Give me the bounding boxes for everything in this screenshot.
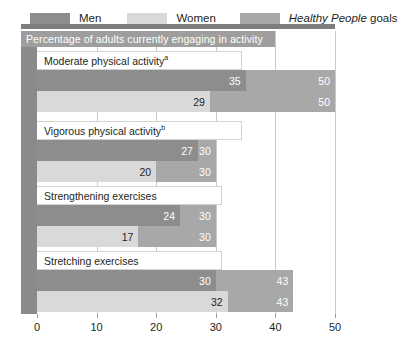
bar-segment-men: 27 xyxy=(37,140,198,161)
bar-segment-women: 29 xyxy=(37,91,210,112)
bar-group-label-text: Stretching exercises xyxy=(37,255,139,267)
x-axis-tick xyxy=(216,314,217,318)
bar-group-label: Vigorous physical activityb xyxy=(37,121,242,140)
bar-goal-label: 43 xyxy=(277,296,294,308)
bar-segment-women: 32 xyxy=(37,291,228,312)
x-axis-tick-label: 40 xyxy=(269,321,281,333)
bar-value-label: 24 xyxy=(163,210,180,222)
bar-segment-goal: 43 xyxy=(216,270,293,291)
bar-value-label: 17 xyxy=(122,231,139,243)
x-axis-tick xyxy=(156,314,157,318)
bar-row: 3243 xyxy=(37,291,293,312)
bar-segment-men: 35 xyxy=(37,70,246,91)
bar-group-label: Moderate physical activitya xyxy=(37,51,242,70)
bar-segment-goal: 30 xyxy=(138,226,215,247)
bar-segment-men: 30 xyxy=(37,270,216,291)
bar-group-footnote-marker: b xyxy=(161,124,165,131)
x-axis-tick xyxy=(37,314,38,318)
bar-group-label-text: Vigorous physical activityb xyxy=(37,124,165,137)
legend-label-goals-italic: Healthy People xyxy=(289,12,367,24)
bar-group-footnote-marker: a xyxy=(164,54,168,61)
bar-row: 2730 xyxy=(37,140,216,161)
bar-goal-label: 50 xyxy=(318,75,335,87)
x-axis-tick-label: 0 xyxy=(34,321,40,333)
bar-goal-label: 30 xyxy=(199,166,216,178)
legend-swatch-goals xyxy=(240,13,280,24)
legend-label-goals-rest: goals xyxy=(367,12,397,24)
bar-segment-goal: 30 xyxy=(156,161,216,182)
bar-value-label: 30 xyxy=(199,275,216,287)
x-axis: 01020304050 xyxy=(37,314,335,349)
legend-item-women: Women xyxy=(127,12,215,24)
legend-label-men: Men xyxy=(79,12,101,24)
plot-left-band xyxy=(21,31,37,314)
bar-segment-goal: 43 xyxy=(228,291,294,312)
legend-item-men: Men xyxy=(30,12,101,24)
bar-row: 3550 xyxy=(37,70,335,91)
legend-swatch-men xyxy=(30,13,70,24)
x-axis-tick-label: 50 xyxy=(329,321,341,333)
bar-row: 2030 xyxy=(37,161,216,182)
bar-value-label: 20 xyxy=(140,166,157,178)
gridline xyxy=(335,31,336,314)
chart-title-bar: Percentage of adults currently engaging … xyxy=(21,31,275,47)
x-axis-tick xyxy=(335,314,336,318)
x-axis-tick xyxy=(97,314,98,318)
x-axis-tick-label: 20 xyxy=(150,321,162,333)
x-axis-tick-label: 10 xyxy=(90,321,102,333)
x-axis-tick xyxy=(275,314,276,318)
legend-item-goals: Healthy People goals xyxy=(240,12,397,24)
bar-segment-goal: 50 xyxy=(210,91,335,112)
bar-segment-men: 24 xyxy=(37,205,180,226)
x-axis-tick-label: 30 xyxy=(210,321,222,333)
bar-group-label-text: Strengthening exercises xyxy=(37,190,157,202)
bar-value-label: 32 xyxy=(211,296,228,308)
bar-goal-label: 30 xyxy=(199,231,216,243)
bar-goal-label: 43 xyxy=(277,275,294,287)
bar-group-label: Strengthening exercises xyxy=(37,186,222,205)
bar-segment-women: 20 xyxy=(37,161,156,182)
bar-segment-goal: 30 xyxy=(198,140,216,161)
legend-label-women: Women xyxy=(176,12,215,24)
bar-value-label: 29 xyxy=(193,96,210,108)
bar-row: 3043 xyxy=(37,270,293,291)
bar-segment-goal: 50 xyxy=(246,70,335,91)
bar-row: 2430 xyxy=(37,205,216,226)
legend-divider-rule xyxy=(21,24,335,29)
chart-title: Percentage of adults currently engaging … xyxy=(21,33,263,45)
legend-label-goals: Healthy People goals xyxy=(289,12,397,24)
bar-goal-label: 30 xyxy=(199,145,216,157)
bar-value-label: 35 xyxy=(229,75,246,87)
bar-value-label: 27 xyxy=(181,145,198,157)
bar-segment-goal: 30 xyxy=(180,205,216,226)
bar-row: 1730 xyxy=(37,226,216,247)
legend-swatch-women xyxy=(127,13,167,24)
bar-row: 2950 xyxy=(37,91,335,112)
bar-goal-label: 50 xyxy=(318,96,335,108)
bar-group-label: Stretching exercises xyxy=(37,251,222,270)
bar-segment-women: 17 xyxy=(37,226,138,247)
bar-goal-label: 30 xyxy=(199,210,216,222)
bar-group-label-text: Moderate physical activitya xyxy=(37,54,168,67)
